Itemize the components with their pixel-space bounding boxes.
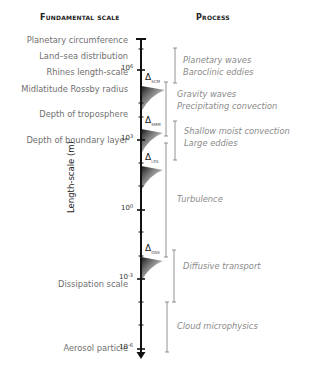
scale-planetary-circumference: Planetary circumference — [27, 35, 128, 45]
marker-les: ΔLES — [145, 152, 158, 164]
axis-label: Length-scale (m) — [66, 141, 76, 213]
process-planetary-baroclinic: Planetary wavesBaroclinic eddies — [183, 54, 254, 78]
process-gravity-precipitating: Gravity wavesPrecipitating convection — [177, 88, 277, 112]
scale-midlatitude-rossby-radius: Midlatitude Rossby radius — [21, 84, 128, 94]
scale-dissipation: Dissipation scale — [58, 279, 128, 289]
marker-dns: ΔDNS — [145, 243, 160, 255]
tick-label-1e-3: 10-3 — [119, 273, 133, 281]
process-shallow-large-eddies: Shallow moist convectionLarge eddies — [184, 125, 290, 149]
scale-depth-boundary-layer: Depth of boundary layer — [26, 135, 128, 145]
marker-scm: ΔSCM — [145, 72, 160, 84]
scale-rhines-length: Rhines length-scale — [47, 67, 128, 77]
scale-depth-troposphere: Depth of troposphere — [39, 109, 128, 119]
tick-label-1e3: 103 — [121, 134, 133, 142]
marker-smm: ΔSMM — [145, 115, 161, 127]
process-cloud-microphysics: Cloud microphysics — [177, 320, 258, 332]
scale-land-sea-distribution: Land–sea distribution — [39, 51, 128, 61]
tick-label-1e6: 106 — [121, 64, 133, 72]
tick-label-1e0: 100 — [121, 204, 133, 212]
process-range-bars — [164, 48, 177, 352]
process-diffusive-transport: Diffusive transport — [183, 260, 261, 272]
tick-label-1e-6: 10-6 — [119, 343, 133, 351]
process-turbulence: Turbulence — [177, 193, 223, 205]
